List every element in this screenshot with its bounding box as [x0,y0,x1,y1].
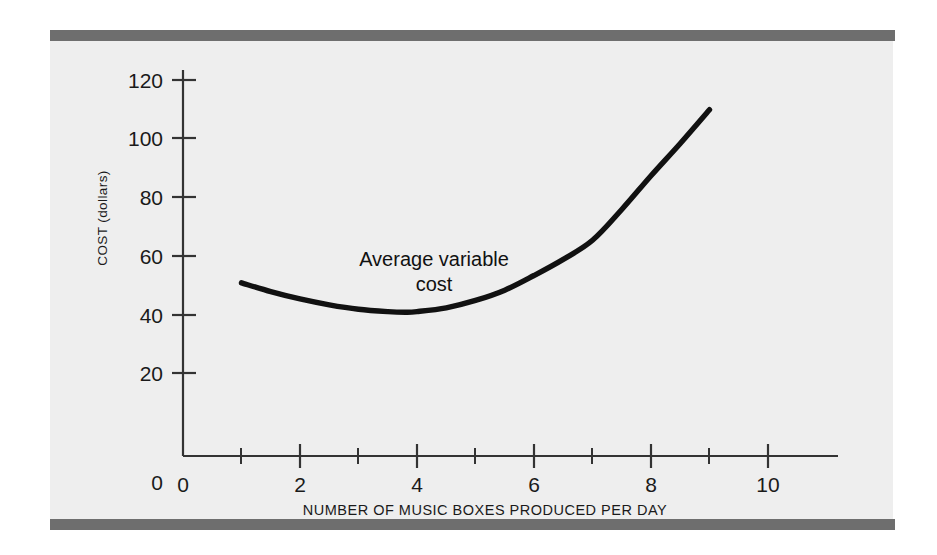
y-tick-label: 80 [140,186,163,209]
y-axis-title: COST (dollars) [95,170,110,265]
figure-container: 120 100 80 60 40 20 0 0 2 4 [0,0,937,555]
y-tick-label: 20 [140,362,163,385]
chart-svg: 120 100 80 60 40 20 0 0 2 4 [0,0,937,555]
y-tick-label: 100 [128,127,163,150]
x-tick-label: 8 [645,473,657,496]
x-axis-title: NUMBER OF MUSIC BOXES PRODUCED PER DAY [303,502,667,518]
y-tick-label: 120 [128,69,163,92]
average-variable-cost-curve [242,110,710,313]
y-tick-label-origin: 0 [151,471,163,494]
x-tick-label: 0 [177,473,189,496]
y-tick-label: 60 [140,245,163,268]
curve-label-line2: cost [416,273,453,295]
x-tick-label: 2 [294,473,306,496]
x-axis-tick-labels: 0 2 4 6 8 10 [177,473,780,496]
x-tick-label: 4 [411,473,423,496]
x-tick-label: 6 [528,473,540,496]
curve-label-line1: Average variable [359,248,509,270]
y-axis-tick-labels: 120 100 80 60 40 20 0 [128,69,163,494]
y-tick-label: 40 [140,304,163,327]
x-tick-label: 10 [756,473,779,496]
